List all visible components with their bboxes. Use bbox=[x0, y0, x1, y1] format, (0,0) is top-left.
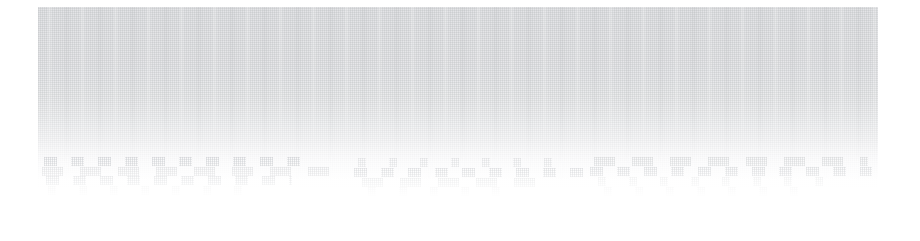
panel-bottom-fade bbox=[38, 7, 878, 197]
screenshot-canvas bbox=[0, 0, 920, 241]
faded-content-panel bbox=[38, 7, 878, 197]
